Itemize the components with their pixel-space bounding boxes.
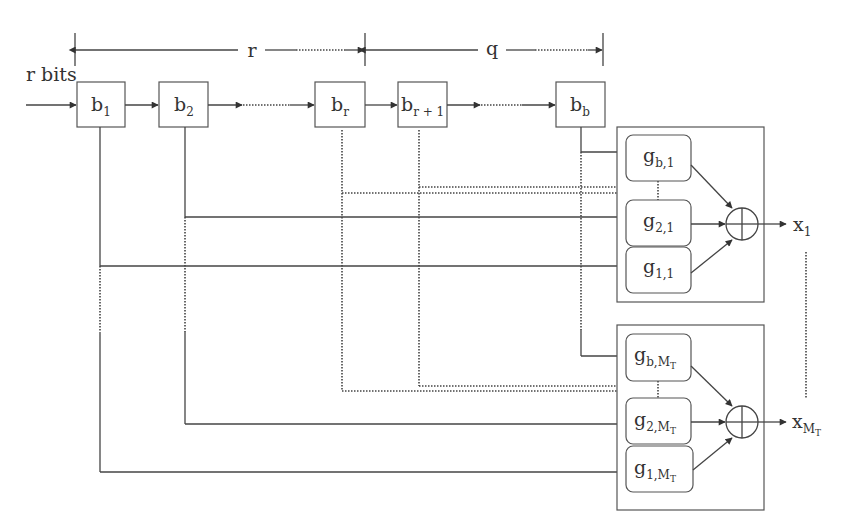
register-bb: bb [556,82,605,127]
register-br1: br + 1 [398,82,447,127]
generator-gb1: gb,1 [626,135,691,181]
input-label: r bits [26,63,77,85]
encoder-block-diagram: r q r bits b1 b2 br br + 1 bb [0,0,849,524]
generator-module-1: gb,1 g2,1 g1,1 x1 [617,127,811,302]
output-xMT: xMT [792,410,821,438]
wire-b1 [100,127,625,472]
diagram-svg: r q r bits b1 b2 br br + 1 bb [0,0,849,524]
adder-MT-icon [726,406,758,438]
adder-1-icon [726,208,758,240]
generator-g11: g1,1 [626,247,691,293]
register-b1: b1 [77,82,125,127]
dim-q-label: q [486,37,498,59]
register-br: br [315,82,365,127]
dimension-r: r [75,33,364,66]
generator-gbMT: gb,MT [626,334,691,381]
register-b2: b2 [159,82,208,127]
output-x1: x1 [793,213,811,239]
wire-b2 [185,127,625,424]
dimension-q: q [365,33,603,66]
dim-r-label: r [247,39,257,61]
generator-g1MT: g1,MT [626,446,693,492]
wire-br [342,130,658,391]
generator-g21: g2,1 [626,200,691,246]
generator-module-MT: gb,MT g2,MT g1,MT xMT [617,325,821,510]
generator-g2MT: g2,MT [626,398,691,444]
